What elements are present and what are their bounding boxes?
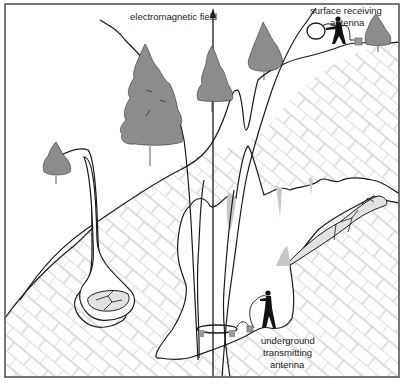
surface-receiver-box — [355, 38, 362, 45]
tree-large-left — [120, 44, 182, 166]
tree-right — [248, 22, 282, 80]
underground-antenna-label-2: transmitting — [263, 347, 312, 358]
cave-radio-diagram: electromagnetic field surface receiving … — [0, 0, 406, 383]
surface-antenna-label-1: surface receiving — [310, 5, 382, 16]
tree-left-small — [43, 142, 71, 184]
em-field-label: electromagnetic field — [130, 11, 217, 22]
surface-antenna-label-2: antenna — [330, 17, 365, 28]
tree-small-center — [197, 46, 233, 112]
underground-transmitter-box — [247, 326, 253, 332]
underground-antenna-label-3: antenna — [270, 359, 305, 370]
underground-antenna-label-1: underground — [261, 335, 315, 346]
